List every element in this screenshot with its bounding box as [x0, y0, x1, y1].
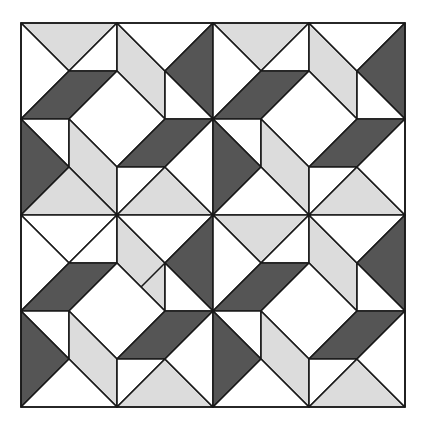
- tiling-diagram: [0, 0, 425, 433]
